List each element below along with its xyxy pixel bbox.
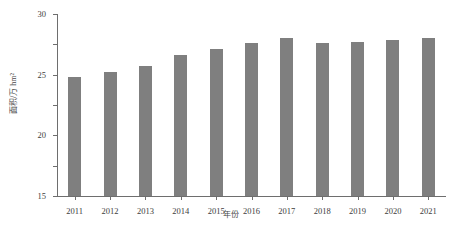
bar xyxy=(139,66,152,196)
y-tick-label: 25 xyxy=(38,70,47,80)
x-tick-mark xyxy=(252,196,253,200)
y-tick-mark: 20 xyxy=(53,75,57,76)
bar xyxy=(174,55,187,196)
y-tick-mark: 5 xyxy=(53,166,57,167)
y-tick-label: 30 xyxy=(38,9,47,19)
bar-chart: 面积/万 hm² 051015202530 201120122013201420… xyxy=(0,0,462,241)
x-tick-mark xyxy=(393,196,394,200)
y-tick-mark: 0 xyxy=(53,196,57,197)
bar xyxy=(245,43,258,196)
x-tick-mark xyxy=(181,196,182,200)
plot-area: 051015202530 201120122013201420152016201… xyxy=(57,14,446,196)
bar xyxy=(104,72,117,196)
x-tick-mark xyxy=(216,196,217,200)
y-tick-label: 20 xyxy=(38,130,47,140)
y-axis-line xyxy=(57,14,58,196)
x-tick-mark xyxy=(145,196,146,200)
x-axis-title: 年份 xyxy=(0,208,462,219)
x-tick-mark xyxy=(110,196,111,200)
bar xyxy=(386,40,399,196)
y-tick-mark: 10 xyxy=(53,135,57,136)
bar xyxy=(210,49,223,196)
x-tick-mark xyxy=(428,196,429,200)
y-tick-mark: 15 xyxy=(53,105,57,106)
x-tick-mark xyxy=(358,196,359,200)
y-tick-label: 15 xyxy=(38,191,47,201)
y-tick-mark: 30 xyxy=(53,14,57,15)
bar xyxy=(351,42,364,196)
x-tick-mark xyxy=(75,196,76,200)
bar xyxy=(422,38,435,196)
y-tick-mark: 25 xyxy=(53,44,57,45)
bar xyxy=(316,43,329,196)
bar xyxy=(68,77,81,196)
bar xyxy=(280,38,293,196)
x-tick-mark xyxy=(287,196,288,200)
x-tick-mark xyxy=(322,196,323,200)
y-axis-title: 面积/万 hm² xyxy=(7,44,18,144)
